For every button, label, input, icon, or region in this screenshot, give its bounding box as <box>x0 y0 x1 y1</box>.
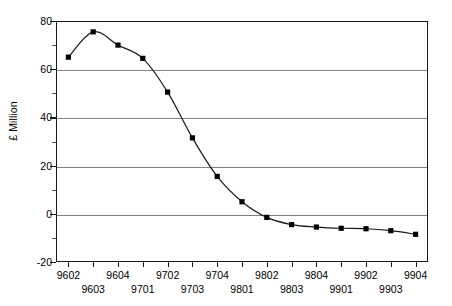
y-axis-tick-major <box>50 166 56 167</box>
x-axis-tick <box>242 262 243 267</box>
x-axis-tick <box>118 262 119 267</box>
x-axis-tick-label: 9602 <box>48 270 88 281</box>
y-axis-tick-minor <box>52 238 56 239</box>
x-axis-tick <box>143 262 144 267</box>
x-axis-tick-label: 9803 <box>272 284 312 295</box>
x-axis-tick <box>341 262 342 267</box>
y-axis-tick-label: 40 <box>6 112 52 122</box>
y-axis-tick-label: 0 <box>6 209 52 219</box>
y-axis-tick-major <box>50 214 56 215</box>
x-axis-tick <box>366 262 367 267</box>
x-axis-tick-label: 9604 <box>98 270 138 281</box>
y-axis-tick-label: 80 <box>6 16 52 26</box>
y-axis-tick-major <box>50 262 56 263</box>
x-axis-tick <box>316 262 317 267</box>
y-axis-tick-label: 60 <box>6 64 52 74</box>
x-axis-tick <box>416 262 417 267</box>
x-axis-tick <box>68 262 69 267</box>
y-axis-tick-major <box>50 117 56 118</box>
x-axis-tick-label: 9802 <box>247 270 287 281</box>
x-axis-tick <box>292 262 293 267</box>
x-axis-tick <box>267 262 268 267</box>
x-axis-tick-label: 9801 <box>222 284 262 295</box>
x-axis-tick-label: 9603 <box>73 284 113 295</box>
x-axis-tick-label: 9901 <box>321 284 361 295</box>
gridline <box>57 215 427 216</box>
x-axis-tick-label: 9904 <box>396 270 436 281</box>
x-axis-tick <box>192 262 193 267</box>
y-axis-tick-minor <box>52 45 56 46</box>
gridline <box>57 70 427 71</box>
x-axis-tick-label: 9704 <box>197 270 237 281</box>
y-axis-tick-minor <box>52 190 56 191</box>
x-axis-tick <box>93 262 94 267</box>
plot-area <box>56 21 428 262</box>
y-axis-tick-labels: 806040200-20 <box>0 0 52 306</box>
line-chart: £ Million 806040200-20 96029603960497019… <box>0 0 452 306</box>
x-axis-tick <box>168 262 169 267</box>
x-axis-tick-label: 9701 <box>123 284 163 295</box>
gridline <box>57 118 427 119</box>
y-axis-tick-minor <box>52 93 56 94</box>
y-axis-tick-major <box>50 69 56 70</box>
x-axis-tick <box>217 262 218 267</box>
x-axis-tick-label: 9903 <box>371 284 411 295</box>
y-axis-tick-label: -20 <box>6 257 52 267</box>
x-axis-tick-label: 9702 <box>148 270 188 281</box>
gridline <box>57 167 427 168</box>
x-axis-tick-label: 9703 <box>172 284 212 295</box>
y-axis-tick-major <box>50 21 56 22</box>
y-axis-tick-label: 20 <box>6 161 52 171</box>
x-axis-tick-label: 9804 <box>296 270 336 281</box>
x-axis-tick-label: 9902 <box>346 270 386 281</box>
y-axis-tick-minor <box>52 142 56 143</box>
x-axis-tick <box>391 262 392 267</box>
